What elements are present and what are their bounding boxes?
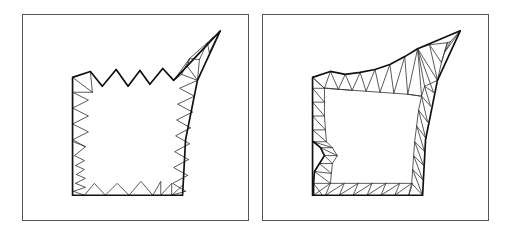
right-mesh-interior-edges: [313, 31, 461, 195]
panel-right-mesh: [262, 14, 489, 221]
left-mesh-boundary: [73, 31, 221, 195]
right-mesh-svg: [263, 15, 488, 220]
two-panel-mesh-figure: [0, 0, 511, 234]
panel-left-mesh: [22, 14, 249, 221]
left-mesh-svg: [23, 15, 248, 220]
right-mesh-boundary: [313, 31, 461, 195]
